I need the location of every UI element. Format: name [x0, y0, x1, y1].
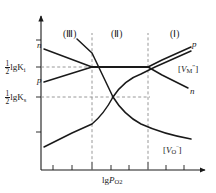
y-axis-ticks [36, 40, 41, 132]
fraction-one-half-ks: 1 2 [5, 90, 10, 107]
y-tick-label-half-lg-Ki: 1 2 lgKi [5, 60, 26, 77]
lg-k-text-s: lgK [10, 92, 24, 102]
region-label-3: (Ⅲ) [63, 30, 76, 40]
bracket-close-vo: ] [179, 145, 182, 155]
subscript-i: i [24, 66, 26, 73]
subscript-s: s [24, 96, 27, 103]
region-label-1: (Ⅰ) [170, 30, 179, 40]
fraction-one-half-ki: 1 2 [5, 60, 10, 77]
curve-label-p-left: p [37, 76, 42, 85]
curve-label-p-right: p [192, 40, 197, 49]
y-tick-label-half-lg-Ks: 1 2 lgKs [5, 90, 26, 107]
curve-label-n-left: n [37, 41, 42, 50]
curve-metal-vacancy [44, 51, 191, 147]
x-axis-label-sub-2: 2 [119, 178, 122, 185]
brouwer-diagram-figure: (Ⅲ) (Ⅱ) (Ⅰ) 1 2 lgKi 1 2 lgKs n p p n [V… [0, 0, 216, 193]
curve-label-metal-vacancy: [VM″] [178, 64, 198, 75]
x-axis-label-prefix: lg [102, 175, 109, 185]
region-label-2: (Ⅱ) [111, 30, 122, 40]
x-axis-ticks [53, 162, 184, 170]
lg-k-text-i: lgK [10, 62, 24, 72]
bracket-close-vm: ] [195, 64, 198, 74]
curve-n [44, 49, 188, 88]
curve-label-n-right: n [190, 87, 195, 96]
plot-canvas [0, 0, 216, 193]
curve-label-oxygen-vacancy: [VO¨] [163, 145, 182, 156]
curve-p [44, 47, 191, 82]
x-axis-label: lgPO2 [102, 176, 122, 186]
